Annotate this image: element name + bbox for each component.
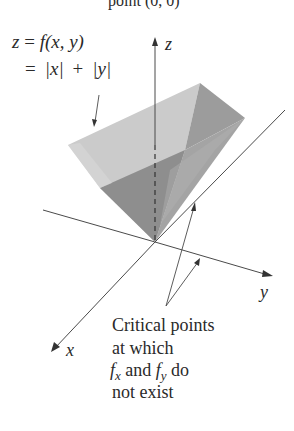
label-pointer-line — [95, 95, 99, 122]
annotation-line-4: not exist — [112, 382, 174, 402]
y-axis-label: y — [258, 282, 268, 302]
annotation-line-3: fx and fy do — [110, 360, 189, 383]
z-axis-label: z — [164, 34, 172, 54]
function-label-line1: z = f(x, y) — [11, 31, 84, 53]
surface-z-abs-x-plus-abs-y — [68, 83, 245, 242]
function-label: z = f(x, y) =|x|+|y| — [11, 31, 111, 79]
annotation-line-2: at which — [112, 338, 173, 358]
critical-pointer-line-1 — [166, 207, 194, 306]
label-pointer-arrowhead-icon — [92, 119, 97, 127]
top-caption-fragment: point (0, 0) — [108, 0, 180, 10]
critical-pointer-line-2 — [166, 262, 198, 306]
x-axis-label: x — [65, 340, 74, 360]
function-label-line2: =|x|+|y| — [25, 58, 111, 79]
critical-pointer-arrowhead-2-icon — [194, 258, 200, 266]
abs-value-surface-diagram: point (0, 0) z y x z = f(x, y) =|x|+|y| — [0, 0, 294, 431]
critical-points-annotation: Critical points at which fx and fy do no… — [110, 315, 215, 402]
y-axis-arrowhead-icon — [262, 270, 273, 277]
y-axis-line — [155, 242, 268, 275]
z-axis-arrowhead-icon — [152, 37, 158, 46]
annotation-line-1: Critical points — [112, 315, 215, 335]
